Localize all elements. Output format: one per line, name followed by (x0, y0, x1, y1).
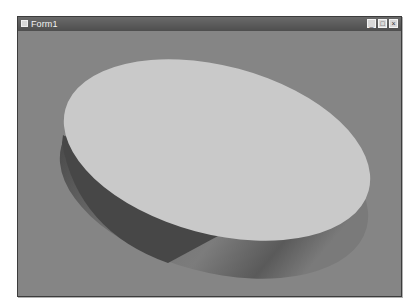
close-button[interactable]: × (389, 19, 398, 28)
title-bar[interactable]: Form1 _ □ × (18, 17, 401, 32)
form1-window: Form1 _ □ × (17, 16, 402, 297)
cylinder-scene (18, 31, 401, 296)
render-viewport[interactable] (18, 31, 401, 296)
maximize-icon: □ (380, 20, 384, 27)
minimize-icon: _ (370, 20, 374, 27)
minimize-button[interactable]: _ (367, 19, 376, 28)
window-title: Form1 (31, 18, 58, 30)
close-icon: × (391, 20, 395, 27)
maximize-button[interactable]: □ (378, 19, 387, 28)
app-icon[interactable] (21, 20, 28, 27)
